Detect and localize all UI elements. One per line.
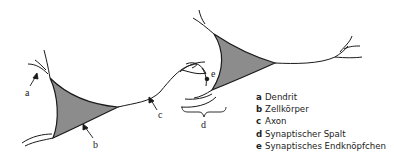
- legend-item-axon: cAxon: [256, 115, 386, 127]
- label-b: b: [93, 139, 98, 150]
- arrowhead-b: [83, 124, 88, 130]
- arrowhead-a: [33, 73, 38, 79]
- cell-body-right: [212, 34, 275, 90]
- label-d: d: [201, 119, 206, 130]
- axon: [275, 46, 348, 63]
- legend: aDendrit bZellkörper cAxon dSynaptischer…: [256, 91, 386, 152]
- synaptic-knob: [205, 77, 209, 81]
- legend-text: Synaptisches Endknöpfchen: [265, 141, 386, 151]
- neuron-left: [22, 50, 216, 146]
- label-a: a: [25, 87, 30, 98]
- legend-text: Zellkörper: [265, 104, 309, 114]
- dendrite: [199, 10, 205, 24]
- legend-text: Axon: [265, 116, 286, 126]
- dendrite: [35, 60, 46, 70]
- legend-letter: c: [256, 115, 265, 127]
- axon-branch: [182, 70, 206, 74]
- brace-d: [182, 107, 226, 117]
- legend-text: Dendrit: [265, 92, 297, 102]
- legend-text: Synaptischer Spalt: [265, 129, 346, 139]
- label-c: c: [158, 109, 163, 120]
- dendrite: [193, 18, 214, 34]
- legend-item-zellkoerper: bZellkörper: [256, 103, 386, 115]
- legend-letter: b: [256, 103, 265, 115]
- legend-item-synaptisches-endknoepfchen: eSynaptisches Endknöpfchen: [256, 140, 386, 152]
- dendrite: [44, 50, 50, 78]
- legend-letter: d: [256, 128, 265, 140]
- legend-letter: e: [256, 140, 265, 152]
- legend-item-dendrit: aDendrit: [256, 91, 386, 103]
- axon-branch: [340, 36, 352, 52]
- axon-branch: [335, 57, 362, 58]
- legend-item-synaptischer-spalt: dSynaptischer Spalt: [256, 128, 386, 140]
- dendrite: [194, 90, 212, 98]
- neuron-right: [186, 10, 362, 98]
- label-e: e: [211, 68, 216, 79]
- legend-letter: a: [256, 91, 265, 103]
